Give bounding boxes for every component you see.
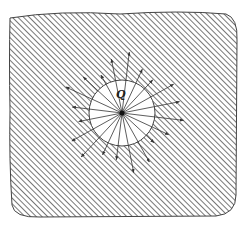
charge-label: Q <box>116 88 126 101</box>
charge-field-diagram <box>0 0 247 228</box>
point-charge <box>120 111 125 116</box>
